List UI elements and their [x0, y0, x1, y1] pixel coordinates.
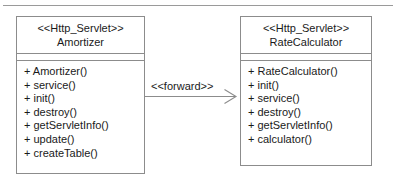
class-header-amortizer: <<Http_Servlet>> Amortizer [17, 17, 144, 54]
open-arrowhead-icon [223, 88, 239, 105]
connector-label-forward: <<forward>> [151, 80, 213, 93]
operation-row[interactable]: + getServletInfo() [24, 119, 144, 133]
operation-row[interactable]: + init() [248, 79, 371, 93]
operation-row[interactable]: + service() [248, 92, 371, 106]
class-stereotype: <<Http_Servlet>> [243, 21, 369, 35]
class-box-ratecalculator[interactable]: <<Http_Servlet>> RateCalculator + RateCa… [240, 16, 372, 166]
operation-row[interactable]: + service() [24, 79, 144, 93]
attributes-compartment-ratecalculator [241, 54, 371, 61]
operation-row[interactable]: + update() [24, 133, 144, 147]
class-stereotype: <<Http_Servlet>> [19, 21, 142, 35]
class-header-ratecalculator: <<Http_Servlet>> RateCalculator [241, 17, 371, 54]
class-box-amortizer[interactable]: <<Http_Servlet>> Amortizer + Amortizer()… [16, 16, 145, 174]
operations-compartment-amortizer: + Amortizer() + service() + init() + des… [17, 61, 144, 164]
attributes-compartment-amortizer [17, 54, 144, 61]
operation-row[interactable]: + createTable() [24, 147, 144, 161]
operation-row[interactable]: + init() [24, 92, 144, 106]
operation-row[interactable]: + destroy() [24, 106, 144, 120]
top-divider-rule [3, 5, 393, 6]
uml-class-diagram: <<Http_Servlet>> Amortizer + Amortizer()… [0, 0, 396, 193]
operations-compartment-ratecalculator: + RateCalculator() + init() + service() … [241, 61, 371, 151]
operation-row[interactable]: + calculator() [248, 133, 371, 147]
operation-row[interactable]: + RateCalculator() [248, 65, 371, 79]
class-name: RateCalculator [243, 35, 369, 49]
operation-row[interactable]: + destroy() [248, 106, 371, 120]
operation-row[interactable]: + Amortizer() [24, 65, 144, 79]
class-name: Amortizer [19, 35, 142, 49]
operation-row[interactable]: + getServletInfo() [248, 119, 371, 133]
connector-line [145, 96, 235, 97]
